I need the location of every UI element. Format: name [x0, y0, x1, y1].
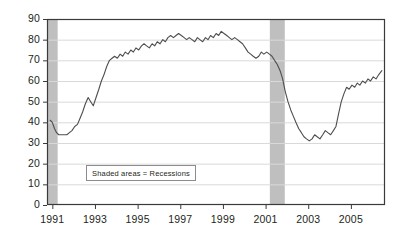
legend-shaded-areas: Shaded areas = Recessions	[86, 165, 196, 181]
y-axis-tick-label: 60	[8, 74, 40, 86]
x-axis-tick-label: 2003	[288, 213, 328, 225]
y-axis-tick-label: 90	[8, 12, 40, 24]
recession-band	[47, 19, 58, 205]
y-axis-tick-label: 40	[8, 115, 40, 127]
y-axis-tick-label: 30	[8, 136, 40, 148]
recession-band	[270, 19, 285, 205]
consumer-confidence-chart: Shaded areas = Recessions 01020304050607…	[0, 0, 402, 235]
y-axis-tick-label: 10	[8, 177, 40, 189]
chart-plot-area	[0, 0, 402, 235]
x-axis-tick-label: 1995	[118, 213, 158, 225]
x-axis-tick-label: 1991	[32, 213, 72, 225]
y-axis-tick-label: 0	[8, 198, 40, 210]
x-axis-tick-label: 1993	[75, 213, 115, 225]
x-axis-tick-label: 2001	[246, 213, 286, 225]
y-axis-tick-label: 50	[8, 95, 40, 107]
y-axis-tick-label: 20	[8, 157, 40, 169]
x-axis-tick-label: 1999	[203, 213, 243, 225]
y-axis-tick-label: 70	[8, 53, 40, 65]
x-axis-tick-label: 2005	[331, 213, 371, 225]
legend-label: Shaded areas = Recessions	[92, 169, 190, 178]
x-axis-tick-label: 1997	[160, 213, 200, 225]
y-axis-tick-label: 80	[8, 33, 40, 45]
